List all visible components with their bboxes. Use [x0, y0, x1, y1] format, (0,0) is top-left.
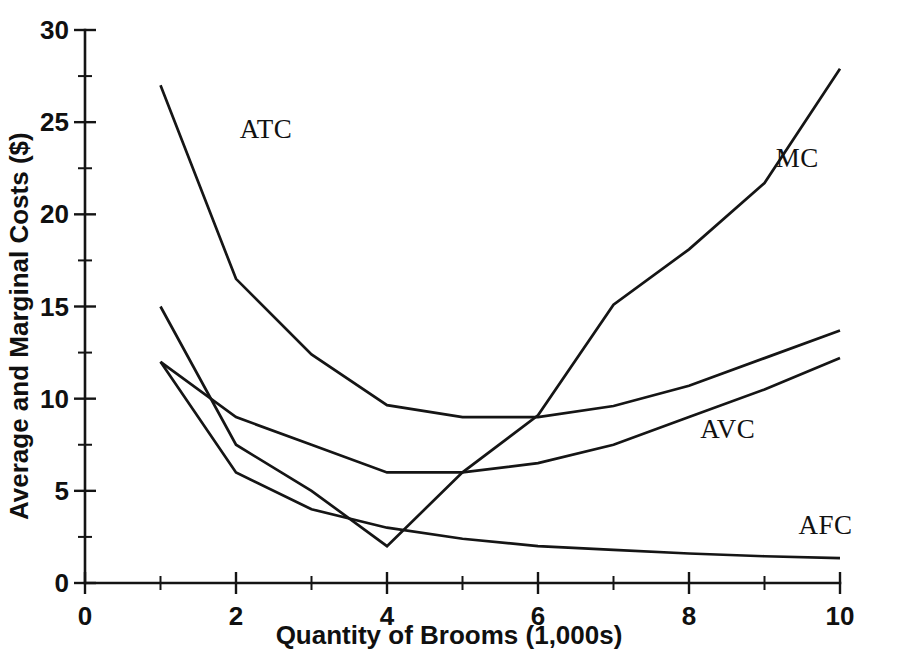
y-axis-title: Average and Marginal Costs ($): [6, 132, 32, 520]
y-tick-label: 30: [17, 17, 69, 43]
axes: [74, 30, 840, 594]
cost-curves-chart: 0510152025300246810 ATCMCAVCAFC Average …: [0, 0, 898, 657]
x-axis-title: Quantity of Brooms (1,000s): [0, 622, 898, 648]
series-label-afc: AFC: [798, 512, 852, 539]
series-label-atc: ATC: [240, 116, 293, 143]
series-label-mc: MC: [776, 145, 819, 172]
y-tick-label: 25: [17, 109, 69, 135]
y-tick-label: 0: [17, 570, 69, 596]
series-label-avc: AVC: [700, 416, 755, 443]
chart-plot-area: [0, 0, 898, 657]
